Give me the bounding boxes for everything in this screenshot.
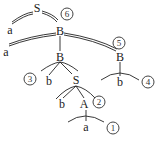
node-S-2: S (73, 74, 80, 86)
step-marker-1: 1 (107, 122, 120, 135)
node-a-3: a (83, 121, 88, 133)
step-marker-5: 5 (113, 37, 126, 50)
step-marker-2: 2 (93, 96, 106, 109)
step-4-label: 4 (142, 76, 155, 89)
step-2-label: 2 (93, 96, 106, 109)
tree-edges (0, 0, 157, 143)
node-B-2: B (56, 51, 64, 63)
node-S-root: S (34, 2, 41, 14)
node-b-4: b (117, 76, 123, 88)
step-marker-3: 3 (24, 73, 37, 86)
node-B-1: B (56, 25, 64, 37)
step-1-label: 1 (107, 122, 120, 135)
step-3-label: 3 (24, 73, 37, 86)
node-a-1: a (7, 24, 12, 36)
node-B-3: B (116, 51, 124, 63)
step-6-label: 6 (61, 8, 74, 21)
node-b-1: b (46, 75, 52, 87)
step-5-label: 5 (113, 37, 126, 50)
node-b-2: b (59, 98, 65, 110)
step-marker-4: 4 (142, 76, 155, 89)
node-A: A (80, 98, 89, 110)
step-marker-6: 6 (61, 8, 74, 21)
node-a-2: a (3, 46, 8, 58)
